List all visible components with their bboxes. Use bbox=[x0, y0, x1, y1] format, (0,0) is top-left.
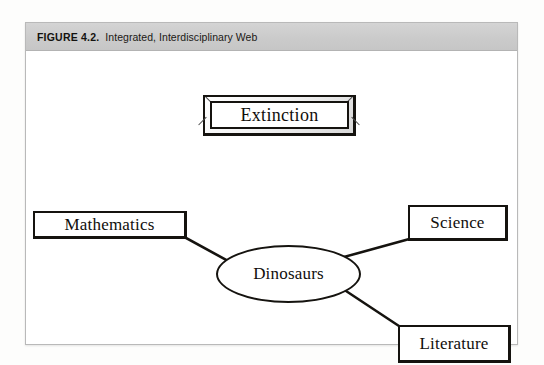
node-literature[interactable]: Literature bbox=[398, 325, 511, 363]
extinction-bevel-inner: Extinction bbox=[210, 101, 349, 129]
node-dinosaurs-label: Dinosaurs bbox=[253, 264, 324, 284]
figure-caption-bar: FIGURE 4.2. Integrated, Interdisciplinar… bbox=[26, 23, 517, 51]
node-extinction[interactable]: Extinction bbox=[203, 95, 356, 136]
node-mathematics-label: Mathematics bbox=[64, 216, 154, 233]
figure-title: Integrated, Interdisciplinary Web bbox=[105, 31, 257, 43]
diagram-canvas: Extinction Mathematics Science Literatur… bbox=[26, 51, 519, 345]
node-science[interactable]: Science bbox=[408, 205, 508, 241]
connector-dinosaurs-literature bbox=[346, 291, 399, 326]
connector-mathematics-dinosaurs bbox=[186, 238, 230, 262]
node-extinction-label: Extinction bbox=[241, 105, 319, 126]
node-dinosaurs[interactable]: Dinosaurs bbox=[216, 245, 361, 303]
figure-frame: FIGURE 4.2. Integrated, Interdisciplinar… bbox=[25, 22, 518, 345]
figure-page: FIGURE 4.2. Integrated, Interdisciplinar… bbox=[0, 0, 544, 365]
node-mathematics[interactable]: Mathematics bbox=[33, 211, 187, 239]
figure-number-label: FIGURE 4.2. bbox=[37, 31, 99, 43]
node-science-label: Science bbox=[430, 214, 484, 231]
connector-dinosaurs-science bbox=[344, 239, 409, 257]
node-literature-label: Literature bbox=[419, 335, 488, 352]
